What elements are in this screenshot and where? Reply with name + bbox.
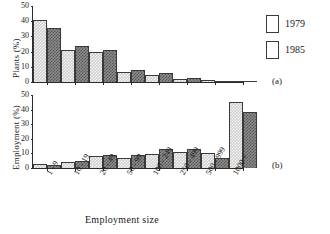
legend-item-1985: 1985 [266,40,330,60]
y-tick-label: 40 [21,17,33,25]
x-tick-mark [243,82,244,85]
y-tick-label: 20 [21,135,33,143]
bar-1979 [61,162,75,168]
y-tick-label: 10 [21,149,33,157]
x-axis-title: Employment size [0,214,244,225]
y-tick-label: 10 [21,63,33,71]
y-tick-label: 20 [21,48,33,56]
x-tick-mark [215,82,216,85]
x-label-cell: 1000 + [218,171,245,213]
legend-swatch-icon [266,15,279,33]
y-axis-title-plants: Plants (%) [11,38,21,78]
figure: Plants (%) 01020304050 (a) Employment (%… [0,0,330,234]
bar-1979 [33,164,47,168]
legend-label: 1985 [285,45,305,55]
x-label-cell: 50 - 99 [112,171,139,213]
x-label-cell: 100 - 249 [138,171,165,213]
bar-1979 [89,52,103,82]
panel-tag-a: (a) [272,76,282,86]
bar-1979 [173,79,187,82]
bar-1979 [201,80,215,82]
x-axis-labels: 1 - 910 - 1920 - 4950 - 99100 - 249250 -… [32,171,244,213]
bar-1979 [229,81,243,82]
x-label-cell: 1 - 9 [32,171,59,213]
bar-group [117,6,145,82]
y-tick-label: 0 [25,78,33,86]
x-tick-mark [75,82,76,85]
bar-group [173,6,201,82]
bar-groups-plants [33,6,244,82]
x-tick-mark [103,82,104,85]
legend: 19791985 [266,14,330,66]
x-tick-mark [131,82,132,85]
bar-group [145,6,173,82]
chart-panel-employment: Employment (%) 01020304050 [0,92,244,172]
y-tick-label: 30 [21,120,33,128]
bar-1979 [117,72,131,82]
x-tick-mark [47,82,48,85]
y-tick-label: 50 [21,91,33,99]
bar-1979 [33,20,47,82]
plot-area-plants: 01020304050 [32,6,244,83]
bar-1985 [243,81,257,82]
legend-swatch-icon [266,41,279,59]
bar-group [33,6,61,82]
bar-1985 [187,78,201,82]
bar-1985 [75,46,89,82]
bar-group [89,6,117,82]
y-axis-title-employment: Employment (%) [11,105,21,170]
bar-1979 [61,50,75,82]
bar-1985 [159,73,173,82]
bar-group [229,6,257,82]
panel-tag-b: (b) [272,160,283,170]
x-tick-mark [159,82,160,85]
bar-group [33,95,61,168]
x-label-cell: 20 - 49 [85,171,112,213]
y-tick-label: 40 [21,106,33,114]
y-tick-label: 50 [21,2,33,10]
legend-label: 1979 [285,19,305,29]
chart-panel-plants: Plants (%) 01020304050 [0,0,244,88]
bar-1985 [103,50,117,82]
bar-1985 [215,81,229,82]
x-label-cell: 10 - 19 [59,171,86,213]
x-label-cell: 500 - 999 [191,171,218,213]
y-tick-label: 30 [21,32,33,40]
bar-group [61,6,89,82]
legend-item-1979: 1979 [266,14,330,34]
x-tick-mark [187,82,188,85]
bar-1985 [131,70,145,82]
bar-1979 [145,75,159,82]
bar-1985 [47,28,61,82]
bar-group [201,6,229,82]
x-label-cell: 250 - 499 [165,171,192,213]
